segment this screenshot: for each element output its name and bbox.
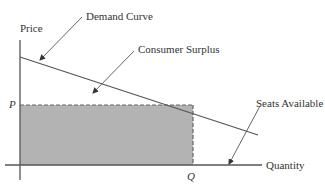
consumer-surplus-label: Consumer Surplus [138,44,220,55]
seats-available-arrow [229,106,260,164]
x-axis-label: Quantity [266,160,305,171]
y-axis-label: Price [20,23,43,34]
consumer-surplus-arrow [93,51,134,93]
shaded-area [20,105,193,165]
demand-curve-arrow [40,17,82,60]
demand-curve-label: Demand Curve [86,11,153,22]
price-marker-label: P [9,99,16,110]
quantity-marker-label: Q [187,171,195,182]
seats-available-label: Seats Available [256,98,323,109]
